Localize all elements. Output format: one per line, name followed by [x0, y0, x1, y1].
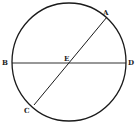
label-E: E [64, 54, 69, 63]
label-D: D [128, 58, 134, 67]
label-B: B [2, 58, 8, 67]
label-C: C [24, 106, 30, 115]
label-A: A [102, 8, 109, 17]
circle-diameters-diagram: A B E D C [0, 0, 140, 126]
diameter-AC [34, 17, 107, 105]
